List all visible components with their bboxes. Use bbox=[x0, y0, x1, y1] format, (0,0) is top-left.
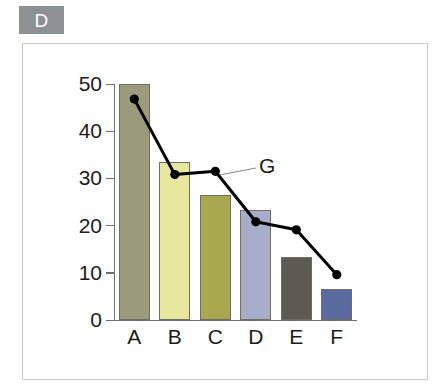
series-annotation-g: G bbox=[259, 155, 275, 176]
bar-b bbox=[159, 162, 190, 320]
bar-f bbox=[321, 289, 352, 320]
x-axis-label-d: D bbox=[236, 326, 276, 347]
x-axis-label-c: C bbox=[195, 326, 235, 347]
x-axis-label-a: A bbox=[114, 326, 154, 347]
bar-e bbox=[281, 257, 312, 320]
bar-d bbox=[240, 210, 271, 320]
x-axis-label-f: F bbox=[317, 326, 357, 347]
bar-c bbox=[200, 195, 231, 320]
figure-panel: D 01020304050 ABCDEF G bbox=[0, 0, 443, 386]
x-axis-label-e: E bbox=[276, 326, 316, 347]
x-axis-label-b: B bbox=[155, 326, 195, 347]
chart-plot-area: 01020304050 ABCDEF G bbox=[0, 0, 443, 386]
bar-a bbox=[119, 84, 150, 320]
